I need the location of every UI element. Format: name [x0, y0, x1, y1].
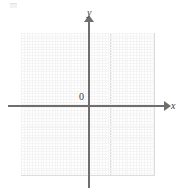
x-axis-line [8, 105, 165, 107]
y-axis-label: y [87, 8, 91, 18]
origin-label: 0 [79, 92, 84, 102]
corner-artifact [10, 3, 17, 8]
x-axis-arrow-icon [164, 101, 171, 111]
x-axis-label: x [171, 101, 175, 111]
y-axis-line [88, 21, 90, 188]
coordinate-plane-figure: y x 0 [0, 0, 184, 193]
